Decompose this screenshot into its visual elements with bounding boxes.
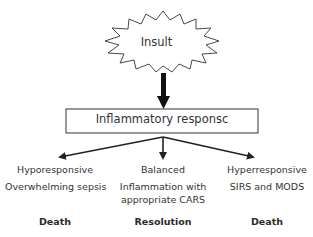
branch-hyporesponsive-type: Hyporesponsive <box>5 163 105 176</box>
thick-down-arrow <box>157 73 170 109</box>
branch-hyperresponsive-outcome: Death <box>217 216 313 227</box>
branch-arrows <box>60 137 253 158</box>
inflammatory-response-label: Inflammatory responsc <box>66 112 258 126</box>
branch-hyperresponsive-type: Hyperresponsive <box>217 163 313 176</box>
insult-label: Insult <box>0 35 313 49</box>
branch-hyperresponsive-description: SIRS and MODS <box>217 180 313 193</box>
branch-balanced-description-line1: Inflammation with <box>113 180 213 193</box>
branch-balanced-outcome: Resolution <box>113 216 213 227</box>
branch-hyporesponsive-outcome: Death <box>5 216 105 227</box>
branch-hyporesponsive-description: Overwhelming sepsis <box>5 180 105 193</box>
branch-balanced-type: Balanced <box>113 163 213 176</box>
branch-balanced-description-line2: appropriate CARS <box>113 193 213 206</box>
